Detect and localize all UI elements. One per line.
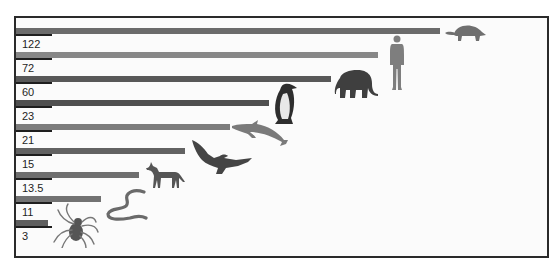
tick-line xyxy=(16,58,52,60)
chart-frame: 122 72 60 23 21 15 13.5 11 xyxy=(14,16,549,258)
bar-tortoise xyxy=(16,28,440,34)
bar-row-eagle: 15 xyxy=(16,146,547,170)
human-icon xyxy=(388,35,406,91)
value-label-snake: 11 xyxy=(22,206,33,218)
spider-icon xyxy=(50,202,100,248)
bar-row-human: 72 xyxy=(16,50,547,74)
tick-line xyxy=(16,106,52,108)
tick-line xyxy=(16,226,52,228)
tick-line xyxy=(16,178,52,180)
value-label-eagle: 15 xyxy=(22,158,34,170)
value-label-dog: 13.5 xyxy=(22,182,43,194)
tick-line xyxy=(16,202,52,204)
snake-icon xyxy=(104,188,148,222)
tortoise-icon xyxy=(444,20,492,44)
value-label-human: 72 xyxy=(22,62,34,74)
tick-line xyxy=(16,154,52,156)
value-label-spider: 3 xyxy=(22,230,28,242)
bar-row-dog: 13.5 xyxy=(16,170,547,194)
elephant-icon xyxy=(334,68,380,100)
tick-line xyxy=(16,130,52,132)
dog-icon xyxy=(145,160,187,190)
value-label-penguin: 23 xyxy=(22,110,34,122)
bar-human xyxy=(16,52,378,58)
eagle-icon xyxy=(190,138,254,176)
value-label-tortoise: 122 xyxy=(22,38,40,50)
tick-line xyxy=(16,34,52,36)
tick-line xyxy=(16,82,52,84)
value-label-dolphin: 21 xyxy=(22,134,34,146)
value-label-elephant: 60 xyxy=(22,86,34,98)
bar-penguin xyxy=(16,100,269,106)
